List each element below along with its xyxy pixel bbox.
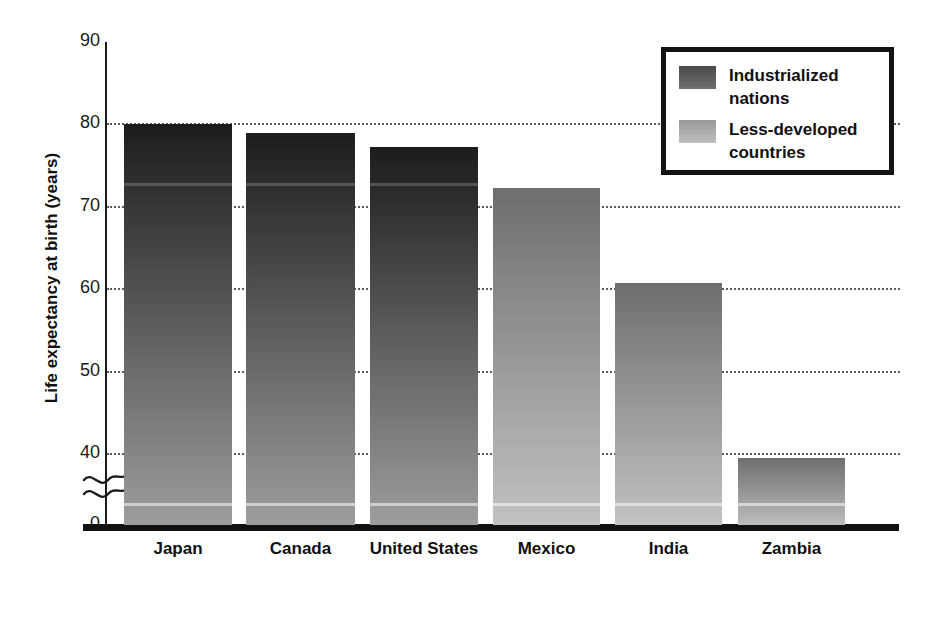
bar-seam xyxy=(246,503,355,506)
bar xyxy=(493,188,600,525)
bar xyxy=(738,458,845,525)
bar-fill xyxy=(246,133,355,525)
legend-label: Industrialized nations xyxy=(729,64,839,110)
bar-fill xyxy=(370,147,478,525)
bar-fill xyxy=(493,188,600,525)
bar-fill xyxy=(738,458,845,525)
bar-seam xyxy=(246,183,355,186)
bar-seam xyxy=(370,183,478,186)
bar-chart: Life expectancy at birth (years) 9080706… xyxy=(0,0,930,619)
x-axis-tick-label: India xyxy=(597,538,740,560)
legend-item: Less-developed countries xyxy=(679,118,858,164)
bar-seam xyxy=(615,503,722,506)
bar-seam xyxy=(124,183,232,186)
legend: Industrialized nationsLess-developed cou… xyxy=(661,47,894,175)
bar-seam xyxy=(738,503,845,506)
bar-seam xyxy=(493,183,600,186)
bar-seam xyxy=(370,503,478,506)
bar-seam xyxy=(124,503,232,506)
bar xyxy=(124,124,232,525)
legend-swatch xyxy=(679,66,716,89)
bar xyxy=(246,133,355,525)
bar xyxy=(615,283,722,525)
legend-item: Industrialized nations xyxy=(679,64,839,110)
bar-seam xyxy=(493,503,600,506)
bar-fill xyxy=(615,283,722,525)
x-axis-tick-label: Zambia xyxy=(720,538,863,560)
legend-swatch xyxy=(679,120,716,143)
legend-label: Less-developed countries xyxy=(729,118,858,164)
bar xyxy=(370,147,478,525)
